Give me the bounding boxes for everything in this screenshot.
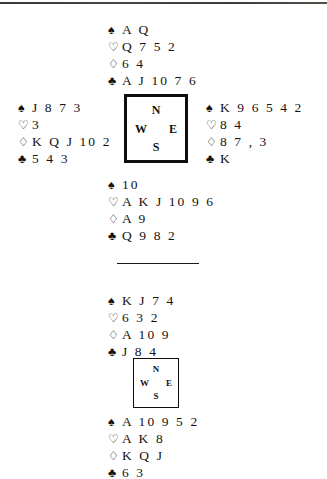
hearts-cards: A K 8 (122, 430, 165, 447)
lower-deal-north-hand: ♠ K J 7 4 ♡ 6 3 2 ♢ A 10 9 ♣ J 8 4 (108, 292, 175, 360)
spade-icon: ♠ (108, 293, 122, 310)
hearts-row: ♡ 3 (18, 116, 112, 133)
hearts-cards: 8 4 (220, 116, 243, 133)
diamond-icon: ♢ (108, 448, 122, 465)
spade-icon: ♠ (206, 100, 220, 117)
hearts-cards: 6 3 2 (122, 309, 160, 326)
diamonds-row: ♢ K Q J 10 2 (18, 133, 112, 150)
clubs-row: ♣ Q 9 8 2 (108, 227, 215, 244)
club-icon: ♣ (108, 228, 122, 245)
section-divider (117, 263, 199, 264)
diamonds-cards: A 10 9 (122, 326, 171, 343)
diamonds-cards: A 9 (122, 210, 147, 227)
lower-deal-south-hand: ♠ A 10 9 5 2 ♡ A K 8 ♢ K Q J ♣ 6 3 (108, 413, 199, 479)
diamonds-cards: K Q J 10 2 (32, 133, 112, 150)
hearts-row: ♡ Q 7 5 2 (108, 38, 198, 55)
heart-icon: ♡ (108, 431, 122, 448)
clubs-cards: Q 9 8 2 (122, 227, 177, 244)
club-icon: ♣ (108, 344, 122, 361)
compass-west-label: W (140, 379, 149, 388)
clubs-row: ♣ A J 10 7 6 (108, 72, 198, 89)
club-icon: ♣ (206, 151, 220, 168)
diamond-icon: ♢ (108, 211, 122, 228)
diamonds-row: ♢ 8 7 , 3 (206, 133, 303, 150)
compass-west-label: W (135, 123, 147, 135)
clubs-cards: 6 3 (122, 464, 145, 479)
spade-icon: ♠ (18, 100, 32, 117)
clubs-row: ♣ 5 4 3 (18, 150, 112, 167)
lower-deal-compass: N W E S (133, 358, 179, 408)
spades-cards: K 9 6 5 4 2 (220, 99, 303, 116)
spades-cards: J 8 7 3 (32, 99, 82, 116)
diamond-icon: ♢ (18, 134, 32, 151)
spades-row: ♠ A 10 9 5 2 (108, 413, 199, 430)
hearts-cards: 3 (32, 116, 41, 133)
spades-cards: A Q (122, 21, 150, 38)
diamonds-cards: 8 7 , 3 (220, 133, 268, 150)
spade-icon: ♠ (108, 414, 122, 431)
diamond-icon: ♢ (108, 327, 122, 344)
compass-south-label: S (153, 141, 160, 153)
spades-cards: 10 (122, 176, 140, 193)
diamonds-cards: 6 4 (122, 55, 145, 72)
scan-edge-artifact (0, 2, 327, 4)
club-icon: ♣ (108, 465, 122, 479)
bridge-deal-page: ♠ A Q ♡ Q 7 5 2 ♢ 6 4 ♣ A J 10 7 6 ♠ J 8… (0, 0, 327, 479)
diamonds-row: ♢ 6 4 (108, 55, 198, 72)
spades-row: ♠ K J 7 4 (108, 292, 175, 309)
clubs-row: ♣ 6 3 (108, 464, 199, 479)
upper-deal-west-hand: ♠ J 8 7 3 ♡ 3 ♢ K Q J 10 2 ♣ 5 4 3 (18, 99, 112, 167)
compass-north-label: N (153, 365, 160, 374)
diamonds-row: ♢ K Q J (108, 447, 199, 464)
upper-deal-north-hand: ♠ A Q ♡ Q 7 5 2 ♢ 6 4 ♣ A J 10 7 6 (108, 21, 198, 89)
hearts-cards: Q 7 5 2 (122, 38, 177, 55)
diamonds-cards: K Q J (122, 447, 164, 464)
hearts-row: ♡ 8 4 (206, 116, 303, 133)
club-icon: ♣ (108, 73, 122, 90)
hearts-cards: A K J 10 9 6 (122, 193, 215, 210)
heart-icon: ♡ (206, 117, 220, 134)
compass-east-label: E (169, 123, 177, 135)
spade-icon: ♠ (108, 22, 122, 39)
heart-icon: ♡ (108, 39, 122, 56)
diamond-icon: ♢ (206, 134, 220, 151)
spade-icon: ♠ (108, 177, 122, 194)
club-icon: ♣ (18, 151, 32, 168)
spades-row: ♠ 10 (108, 176, 215, 193)
clubs-cards: 5 4 3 (32, 150, 70, 167)
diamonds-row: ♢ A 10 9 (108, 326, 175, 343)
spades-row: ♠ K 9 6 5 4 2 (206, 99, 303, 116)
clubs-cards: A J 10 7 6 (122, 72, 198, 89)
compass-south-label: S (153, 392, 158, 401)
compass-east-label: E (166, 379, 172, 388)
clubs-row: ♣ K (206, 150, 303, 167)
heart-icon: ♡ (108, 194, 122, 211)
heart-icon: ♡ (108, 310, 122, 327)
spades-cards: A 10 9 5 2 (122, 413, 199, 430)
hearts-row: ♡ 6 3 2 (108, 309, 175, 326)
heart-icon: ♡ (18, 117, 32, 134)
diamond-icon: ♢ (108, 56, 122, 73)
clubs-cards: K (220, 150, 232, 167)
spades-row: ♠ J 8 7 3 (18, 99, 112, 116)
upper-deal-east-hand: ♠ K 9 6 5 4 2 ♡ 8 4 ♢ 8 7 , 3 ♣ K (206, 99, 303, 167)
hearts-row: ♡ A K 8 (108, 430, 199, 447)
diamonds-row: ♢ A 9 (108, 210, 215, 227)
upper-deal-compass: N W E S (124, 94, 188, 163)
spades-cards: K J 7 4 (122, 292, 175, 309)
spades-row: ♠ A Q (108, 21, 198, 38)
compass-north-label: N (152, 104, 161, 116)
upper-deal-south-hand: ♠ 10 ♡ A K J 10 9 6 ♢ A 9 ♣ Q 9 8 2 (108, 176, 215, 244)
hearts-row: ♡ A K J 10 9 6 (108, 193, 215, 210)
